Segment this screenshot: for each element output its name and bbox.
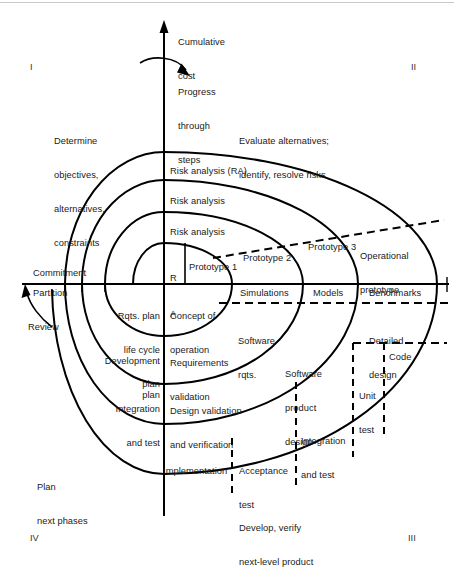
- prototype-2-label: Prototype 2: [243, 253, 291, 264]
- quadrant-ii-description: Evaluate alternatives; identify, resolve…: [239, 113, 329, 204]
- vertical-axis-arrowhead: [160, 20, 169, 33]
- rqts-plan-line1: Rqts. plan: [84, 311, 160, 322]
- concept-line1: Concept of: [170, 311, 215, 322]
- benchmarks-label: Benchmarks: [369, 288, 421, 299]
- risk-analysis-label-3: Risk analysis: [170, 227, 225, 238]
- design-validation-line2: and verification: [170, 440, 242, 451]
- progress-line3: steps: [178, 155, 216, 166]
- acceptance-test-line1: Acceptance: [239, 466, 288, 477]
- q4-line2: next phases: [37, 516, 88, 527]
- quadrant-iv-description: Plan next phases: [37, 459, 88, 550]
- software-rqts-line1: Software: [238, 336, 275, 347]
- acceptance-test-label: Acceptance test: [239, 443, 288, 534]
- operational-prototype-line1: Operational: [360, 251, 409, 262]
- implementation-label: Implementation: [163, 466, 227, 477]
- progress-line2: through: [178, 121, 216, 132]
- design-validation-label: Design validation and verification: [170, 383, 242, 474]
- detailed-design-line1: Detailed: [369, 336, 404, 347]
- models-label: Models: [313, 288, 343, 299]
- integration-and-test-line2: and test: [301, 470, 345, 481]
- partition-label: Partition: [33, 288, 68, 299]
- unit-test-line1: Unit: [359, 391, 376, 402]
- q4-line1: Plan: [37, 482, 88, 493]
- review-arrowhead: [22, 284, 31, 298]
- operational-prototype-label: Operational prototype: [360, 228, 409, 319]
- simulations-label: Simulations: [240, 288, 289, 299]
- q3-line2: next-level product: [239, 557, 313, 568]
- cumulative-cost-line1: Cumulative: [178, 37, 225, 48]
- design-validation-line1: Design validation: [170, 406, 242, 417]
- requirements-validation-line1: Requirements: [170, 358, 228, 369]
- q1-line1: Determine: [54, 136, 105, 147]
- quadrant-numeral-iii: III: [408, 533, 416, 543]
- risk-analysis-label-2: Risk analysis: [170, 196, 225, 207]
- risk-analysis-label-1: Risk analysis (RA): [170, 166, 247, 177]
- software-rqts-line2: rqts.: [238, 370, 275, 381]
- progress-line1: Progress: [178, 87, 216, 98]
- q1-line2: objectives,: [54, 170, 105, 181]
- q2-line1: Evaluate alternatives;: [239, 136, 329, 147]
- commitment-label: Commitment: [33, 268, 86, 279]
- acceptance-test-line2: test: [239, 500, 288, 511]
- prototype-1-label: Prototype 1: [189, 262, 237, 273]
- integration-and-test-plan-label: Integration and test: [76, 381, 160, 472]
- unit-test-label: Unit test: [359, 368, 376, 459]
- integration-and-test-line1: Integration: [301, 436, 345, 447]
- review-label: Review: [28, 322, 59, 333]
- q1-line4: constraints: [54, 238, 105, 249]
- software-rqts-label: Software rqts.: [238, 313, 275, 404]
- prototype-3-label: Prototype 3: [308, 242, 356, 253]
- integration-and-test-label: Integration and test: [301, 413, 345, 504]
- unit-test-line2: test: [359, 425, 376, 436]
- quadrant-i-description: Determine objectives, alternatives, cons…: [54, 113, 105, 273]
- ra-letter-r: R: [170, 272, 181, 284]
- software-product-design-line1: Software: [285, 369, 322, 380]
- development-plan-line1: Development: [72, 356, 160, 367]
- q1-line3: alternatives,: [54, 204, 105, 215]
- integration-plan-line1: Integration: [76, 404, 160, 415]
- code-label: Code: [389, 352, 411, 363]
- q2-line2: identify, resolve risks: [239, 170, 329, 181]
- quadrant-numeral-ii: II: [411, 62, 416, 72]
- integration-plan-line2: and test: [76, 438, 160, 449]
- quadrant-numeral-i: I: [30, 62, 33, 72]
